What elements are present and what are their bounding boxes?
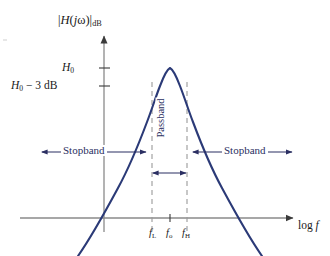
stopband-left-label: Stopband <box>61 145 107 156</box>
fh-subscript: H <box>185 232 190 239</box>
logf-f: f <box>316 219 319 231</box>
fl-subscript: L <box>152 232 156 239</box>
h0-subscript: 0 <box>70 66 74 75</box>
bandpass-filter-figure: |H(jω)|dB H0 H0 − 3 dB fL fo fH log f St… <box>0 0 330 256</box>
x-axis-label: log f <box>298 220 319 232</box>
x-tick-label-fl: fL <box>149 228 156 239</box>
x-tick-label-fo: fo <box>166 228 172 239</box>
x-tick-label-fh: fH <box>182 228 190 239</box>
h0-3db-rest: − 3 dB <box>23 79 57 91</box>
y-axis-db-subscript: dB <box>92 19 102 28</box>
passband-label: Passband <box>156 97 167 138</box>
y-tick-label-h0-minus-3db: H0 − 3 dB <box>11 80 57 92</box>
stopband-right-label: Stopband <box>222 145 268 156</box>
y-axis-H: H <box>61 13 70 27</box>
fo-subscript: o <box>169 232 172 239</box>
y-tick-label-h0: H0 <box>62 62 74 74</box>
y-axis-label: |H(jω)|dB <box>58 14 102 28</box>
logf-log: log <box>298 219 316 231</box>
